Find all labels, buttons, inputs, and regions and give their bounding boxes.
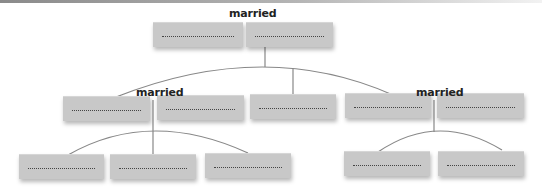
name-field[interactable] [162,36,234,37]
person-box-child-2[interactable] [110,154,196,179]
person-box-child-3[interactable] [205,153,291,178]
person-box-child-5[interactable] [438,151,524,176]
person-box-child-4[interactable] [344,151,430,176]
person-box-grandparent-2[interactable] [246,22,333,47]
name-field[interactable] [119,168,187,169]
name-field[interactable] [447,165,515,166]
name-field[interactable] [259,108,327,109]
married-label: married [229,8,276,20]
person-box-parent-1[interactable] [63,96,150,121]
married-label: married [416,87,463,99]
person-box-grandparent-1[interactable] [153,22,243,47]
name-field[interactable] [353,165,421,166]
name-field[interactable] [28,168,95,169]
arc-left-children [68,131,248,155]
married-label: married [136,87,183,99]
name-field[interactable] [354,107,422,108]
arc-right-children [378,131,502,152]
person-box-parent-2[interactable] [250,94,336,119]
person-box-child-1[interactable] [19,154,104,179]
name-field[interactable] [446,107,515,108]
name-field[interactable] [214,167,282,168]
name-field[interactable] [72,110,141,111]
name-field[interactable] [255,36,324,37]
name-field[interactable] [166,109,235,110]
